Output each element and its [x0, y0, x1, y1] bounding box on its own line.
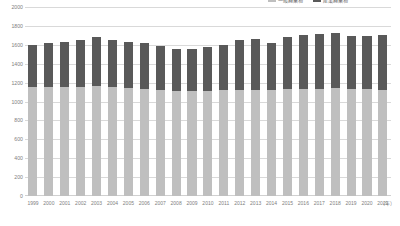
bar-series-group [25, 7, 391, 196]
bar-slot[interactable] [232, 7, 248, 196]
stacked-bar[interactable] [28, 45, 37, 196]
bar-segment-upper[interactable] [347, 36, 356, 89]
bar-segment-lower[interactable] [251, 90, 260, 196]
bar-slot[interactable] [200, 7, 216, 196]
stacked-bar[interactable] [347, 36, 356, 196]
bar-segment-upper[interactable] [124, 42, 133, 88]
bar-segment-upper[interactable] [108, 40, 117, 87]
bar-segment-lower[interactable] [283, 89, 292, 196]
bar-segment-upper[interactable] [378, 35, 387, 90]
bar-segment-upper[interactable] [28, 45, 37, 88]
bar-segment-upper[interactable] [60, 42, 69, 87]
stacked-bar[interactable] [315, 34, 324, 196]
bar-segment-lower[interactable] [124, 88, 133, 196]
bar-segment-upper[interactable] [203, 47, 212, 91]
bar-slot[interactable] [216, 7, 232, 196]
bar-segment-upper[interactable] [235, 40, 244, 90]
bar-segment-upper[interactable] [267, 43, 276, 90]
bar-segment-upper[interactable] [331, 33, 340, 89]
x-axis-tick-label: 2016 [295, 199, 311, 211]
bar-slot[interactable] [264, 7, 280, 196]
bar-segment-upper[interactable] [251, 39, 260, 90]
x-axis-tick-label: 2008 [168, 199, 184, 211]
stacked-bar[interactable] [44, 43, 53, 196]
bar-segment-lower[interactable] [315, 89, 324, 196]
bar-segment-upper[interactable] [283, 37, 292, 89]
bar-slot[interactable] [57, 7, 73, 196]
bar-slot[interactable] [280, 7, 296, 196]
bar-segment-lower[interactable] [108, 87, 117, 196]
bar-segment-lower[interactable] [331, 88, 340, 196]
bar-slot[interactable] [105, 7, 121, 196]
bar-segment-lower[interactable] [92, 86, 101, 196]
x-axis-tick-label: 2013 [248, 199, 264, 211]
bar-slot[interactable] [120, 7, 136, 196]
stacked-bar[interactable] [187, 49, 196, 196]
bar-segment-upper[interactable] [156, 46, 165, 90]
bar-segment-upper[interactable] [219, 45, 228, 90]
bar-slot[interactable] [343, 7, 359, 196]
bar-slot[interactable] [168, 7, 184, 196]
bar-slot[interactable] [359, 7, 375, 196]
bar-segment-lower[interactable] [187, 91, 196, 196]
bar-segment-lower[interactable] [267, 90, 276, 196]
bar-segment-lower[interactable] [347, 89, 356, 196]
bar-segment-lower[interactable] [235, 90, 244, 196]
bar-slot[interactable] [184, 7, 200, 196]
bar-slot[interactable] [248, 7, 264, 196]
bar-segment-upper[interactable] [172, 49, 181, 92]
stacked-bar[interactable] [60, 42, 69, 196]
x-axis: 1999200020012002200320042005200620072008… [25, 199, 391, 211]
stacked-bar[interactable] [140, 43, 149, 196]
bar-slot[interactable] [311, 7, 327, 196]
stacked-bar[interactable] [92, 37, 101, 196]
bar-segment-upper[interactable] [92, 37, 101, 86]
bar-segment-upper[interactable] [187, 49, 196, 92]
bar-segment-lower[interactable] [28, 87, 37, 196]
stacked-bar[interactable] [251, 39, 260, 196]
stacked-bar[interactable] [172, 49, 181, 196]
stacked-bar[interactable] [156, 46, 165, 196]
bar-slot[interactable] [73, 7, 89, 196]
x-axis-tick-label: 2019 [343, 199, 359, 211]
bar-segment-lower[interactable] [219, 90, 228, 196]
bar-slot[interactable] [136, 7, 152, 196]
bar-segment-upper[interactable] [44, 43, 53, 87]
bar-slot[interactable] [327, 7, 343, 196]
bar-slot[interactable] [89, 7, 105, 196]
bar-segment-lower[interactable] [140, 89, 149, 196]
bar-segment-upper[interactable] [140, 43, 149, 89]
bar-slot[interactable] [295, 7, 311, 196]
bar-segment-lower[interactable] [44, 87, 53, 196]
bar-segment-upper[interactable] [362, 36, 371, 89]
bar-segment-upper[interactable] [299, 35, 308, 89]
bar-segment-lower[interactable] [60, 87, 69, 196]
bar-slot[interactable] [41, 7, 57, 196]
stacked-bar[interactable] [299, 35, 308, 196]
bar-segment-upper[interactable] [315, 34, 324, 89]
stacked-bar[interactable] [378, 35, 387, 196]
stacked-bar[interactable] [124, 42, 133, 196]
bar-segment-lower[interactable] [156, 90, 165, 196]
bar-segment-lower[interactable] [378, 90, 387, 196]
bar-slot[interactable] [25, 7, 41, 196]
stacked-bar[interactable] [267, 43, 276, 196]
stacked-bar[interactable] [235, 40, 244, 196]
bar-segment-lower[interactable] [362, 89, 371, 196]
stacked-bar[interactable] [203, 47, 212, 196]
bar-segment-lower[interactable] [299, 89, 308, 196]
bar-segment-lower[interactable] [172, 91, 181, 196]
bar-segment-lower[interactable] [203, 91, 212, 196]
y-axis-tick-label: 1000 [1, 99, 23, 104]
stacked-bar[interactable] [362, 36, 371, 196]
stacked-bar[interactable] [331, 33, 340, 196]
legend-label-0: 一般廃棄物 [278, 0, 303, 3]
stacked-bar[interactable] [283, 37, 292, 196]
bar-segment-lower[interactable] [76, 87, 85, 196]
stacked-bar[interactable] [108, 40, 117, 196]
bar-slot[interactable] [375, 7, 391, 196]
stacked-bar[interactable] [219, 45, 228, 196]
stacked-bar[interactable] [76, 40, 85, 196]
bar-segment-upper[interactable] [76, 40, 85, 87]
bar-slot[interactable] [152, 7, 168, 196]
